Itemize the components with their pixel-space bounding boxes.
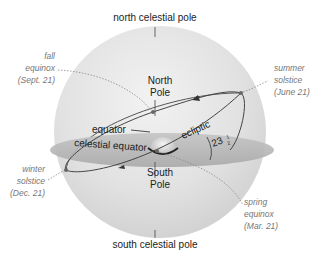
svg-text:equinox: equinox <box>25 63 56 73</box>
celestial-sphere-diagram: north celestial pole south celestial pol… <box>0 0 319 260</box>
north-pole-label-line2: Pole <box>150 87 170 98</box>
svg-text:solstice: solstice <box>274 75 303 85</box>
summer-solstice-label: summer solstice (June 21) <box>274 63 310 97</box>
svg-text:fall: fall <box>44 51 56 61</box>
south-celestial-pole-label: south celestial pole <box>112 239 197 250</box>
south-pole-label-line2: Pole <box>150 179 170 190</box>
summer-solstice-point <box>239 91 243 95</box>
spring-equinox-label: spring equinox (Mar. 21) <box>244 197 278 231</box>
svg-text:spring: spring <box>244 197 267 207</box>
svg-text:(Mar. 21): (Mar. 21) <box>244 221 278 231</box>
svg-text:(Dec. 21): (Dec. 21) <box>10 188 45 198</box>
svg-text:(Sept. 21): (Sept. 21) <box>18 75 55 85</box>
south-pole-label-line1: South <box>147 167 173 178</box>
winter-solstice-label: winter solstice (Dec. 21) <box>10 164 46 198</box>
fall-equinox-label: fall equinox (Sept. 21) <box>18 51 56 85</box>
fall-equinox-point <box>151 110 155 114</box>
spring-equinox-point <box>155 149 159 153</box>
winter-solstice-leader <box>48 171 64 180</box>
svg-text:summer: summer <box>274 63 306 73</box>
north-celestial-pole-label: north celestial pole <box>113 12 197 23</box>
winter-solstice-point <box>64 168 68 172</box>
equator-label: equator <box>92 124 127 135</box>
north-pole-label-line1: North <box>148 75 172 86</box>
svg-text:solstice: solstice <box>17 176 46 186</box>
svg-text:(June 21): (June 21) <box>274 87 310 97</box>
svg-text:equinox: equinox <box>244 209 275 219</box>
svg-text:winter: winter <box>22 164 46 174</box>
celestial-sphere <box>54 26 266 238</box>
